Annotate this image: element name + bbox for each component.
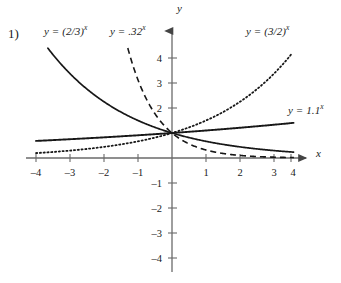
y-tick-label--3: –3 [151, 228, 163, 239]
curve-label-one-point-one-exponent: x [320, 102, 323, 111]
y-tick-label-3: 3 [157, 78, 162, 89]
curve-label-three-halves: y = (3/2)x [246, 25, 290, 37]
curve-one-point-one [36, 123, 294, 141]
curve-label-one-point-one: y = 1.1x [288, 104, 324, 116]
curve-label-two-thirds-text: y = (2/3) [44, 25, 84, 37]
curve-label-two-thirds: y = (2/3)x [44, 25, 88, 37]
x-tick-label-3: 3 [271, 167, 276, 178]
y-tick-label-4: 4 [157, 53, 163, 64]
y-tick-label--4: –4 [151, 253, 163, 264]
curve-label-point32-exponent: x [142, 23, 145, 32]
x-tick-labels: –4 –3 –2 –1 1 2 3 4 [30, 167, 297, 178]
graph-figure: 1) [0, 0, 341, 283]
coordinate-plane: –4 –3 –2 –1 1 2 3 4 4 3 2 –1 –2 –3 –4 [0, 0, 341, 283]
x-axis-label: x [316, 147, 321, 159]
curve-label-three-halves-exponent: x [286, 23, 289, 32]
x-tick-label-2: 2 [237, 167, 242, 178]
x-tick-label--4: –4 [30, 167, 42, 178]
x-tick-label--1: –1 [132, 167, 144, 178]
curve-label-two-thirds-exponent: x [84, 23, 87, 32]
x-tick-label--3: –3 [64, 167, 76, 178]
y-tick-label--2: –2 [151, 203, 163, 214]
curve-label-one-point-one-text: y = 1.1 [288, 104, 320, 116]
y-axis-label: y [177, 2, 182, 14]
curve-label-point32: y = .32x [110, 25, 146, 37]
curve-two-thirds [48, 48, 294, 152]
curve-point32 [128, 48, 294, 158]
curves [36, 48, 294, 158]
y-tick-label--1: –1 [151, 178, 163, 189]
curve-label-point32-text: y = .32 [110, 25, 142, 37]
x-tick-label-4: 4 [290, 167, 296, 178]
y-tick-label-2: 2 [157, 103, 162, 114]
x-tick-label-1: 1 [203, 167, 208, 178]
curve-label-three-halves-text: y = (3/2) [246, 25, 286, 37]
x-tick-label--2: –2 [98, 167, 110, 178]
